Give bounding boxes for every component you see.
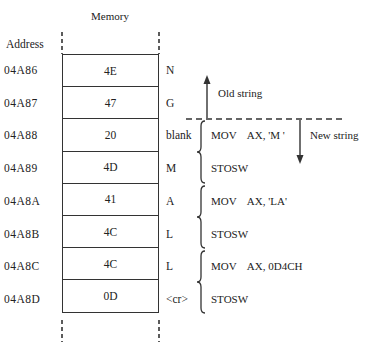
memory-cell: 41 [62, 184, 159, 216]
address-label: 04A87 [4, 97, 60, 109]
char-label: N [166, 64, 174, 76]
instruction: MOV AX, 'LA' [211, 195, 287, 207]
address-label: 04A88 [4, 129, 60, 141]
instruction: STOSW [211, 162, 248, 174]
instruction: MOV AX, 0D4CH [211, 260, 302, 272]
char-label: L [166, 228, 173, 240]
address-label: 04A89 [4, 162, 60, 174]
memory-cell: 0D [62, 280, 159, 312]
char-label: <cr> [166, 293, 188, 305]
char-label: M [166, 162, 176, 174]
memory-cell: 4D [62, 152, 159, 184]
memory-cell: 47 [62, 87, 159, 119]
memory-cell: 4E [62, 55, 159, 87]
address-label: 04A8C [4, 260, 60, 272]
memory-cell: 4C [62, 216, 159, 248]
address-label: 04A8B [4, 228, 60, 240]
brace-icon [197, 121, 205, 313]
char-label: G [166, 97, 174, 109]
old-string-label: Old string [218, 87, 262, 99]
new-string-label: New string [310, 129, 359, 141]
memory-table: 4E 47 20 4D 41 4C 4C 0D [62, 54, 159, 313]
char-label: A [166, 195, 174, 207]
instruction: STOSW [211, 293, 248, 305]
char-label: L [166, 260, 173, 272]
instruction: STOSW [211, 228, 248, 240]
address-label: 04A8A [4, 195, 60, 207]
instruction: MOV AX, 'M ' [211, 129, 285, 141]
address-label: 04A8D [4, 293, 60, 305]
char-label: blank [166, 129, 192, 141]
address-label: 04A86 [4, 64, 60, 76]
memory-cell: 4C [62, 248, 159, 280]
memory-cell: 20 [62, 119, 159, 151]
